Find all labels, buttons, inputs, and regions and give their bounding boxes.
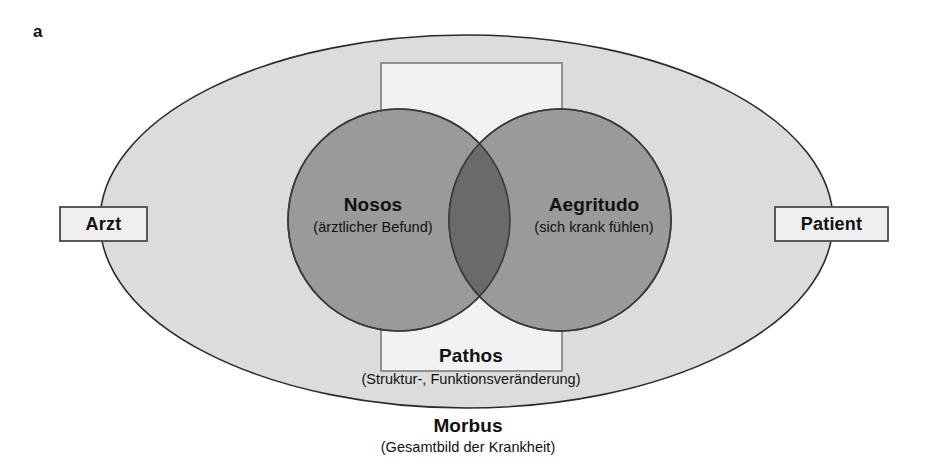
aegritudo-title: Aegritudo (549, 194, 640, 216)
pathos-title: Pathos (439, 345, 503, 367)
figure-canvas: a Nosos (ärztlicher Befund) Aegritudo (s… (0, 0, 928, 464)
pathos-subtitle: (Struktur-, Funktionsveränderung) (361, 371, 580, 387)
aegritudo-subtitle: (sich krank fühlen) (534, 219, 653, 235)
morbus-title: Morbus (433, 415, 502, 437)
nosos-subtitle: (ärztlicher Befund) (313, 219, 432, 235)
arzt-box-label: Arzt (60, 207, 147, 241)
morbus-subtitle: (Gesamtbild der Krankheit) (381, 439, 556, 455)
nosos-title: Nosos (344, 194, 403, 216)
patient-box-label: Patient (775, 207, 888, 241)
